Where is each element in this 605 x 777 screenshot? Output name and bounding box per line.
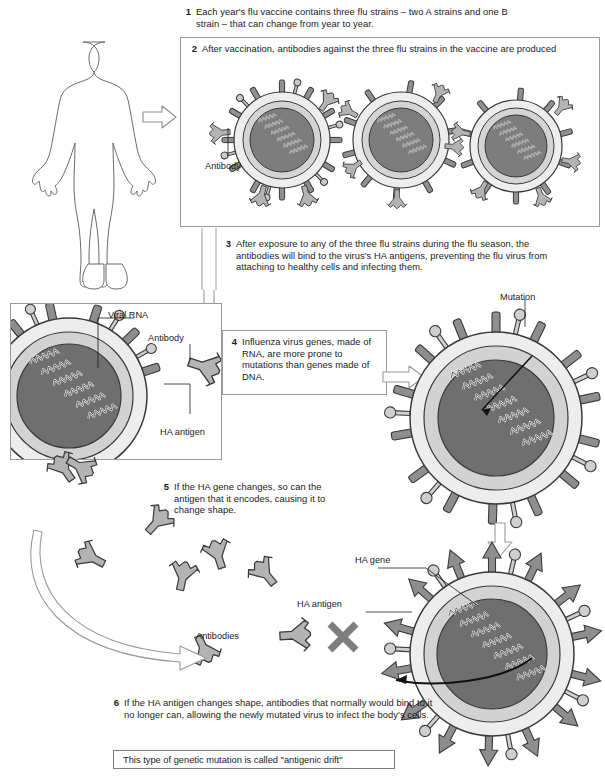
step-6-text: If the HA antigen changes shape, antibod…	[124, 697, 440, 720]
step-4-number: 4	[228, 336, 237, 348]
antibody-label-left: Antibody	[148, 333, 184, 343]
antibody-icon	[199, 536, 237, 573]
antibody-label-panel2: Antibody	[205, 161, 241, 171]
mutated-virus-top	[388, 310, 604, 522]
mutation-label: Mutation	[500, 292, 535, 302]
antibody-icon	[244, 552, 286, 594]
antigenic-drift-caption: This type of genetic mutation is called …	[113, 750, 395, 769]
step-1: 1 Each year's flu vaccine contains three…	[182, 6, 512, 29]
step-1-text: Each year's flu vaccine contains three f…	[196, 6, 512, 29]
ha-gene-label: HA gene	[355, 555, 390, 565]
step-6-number: 6	[110, 697, 119, 709]
vaccine-virus-group	[186, 62, 596, 224]
human-body-icon	[30, 36, 180, 296]
step-6: 6 If the HA antigen changes shape, antib…	[110, 697, 440, 720]
step-4: 4 Influenza virus genes, made of RNA, ar…	[228, 336, 380, 382]
antibody-icon	[279, 617, 312, 652]
step-2-number: 2	[188, 43, 197, 55]
antibody-icon	[72, 537, 112, 578]
step-2: 2 After vaccination, antibodies against …	[188, 43, 596, 55]
viral-rna-label: Viral RNA	[108, 310, 148, 320]
step-3: 3 After exposure to any of the three flu…	[222, 238, 552, 273]
caption-text: This type of genetic mutation is called …	[123, 755, 343, 765]
step-1-number: 1	[182, 6, 191, 18]
antibody-leader-line	[226, 128, 244, 158]
antibodies-label: Antibodies	[196, 631, 239, 641]
step-3-text: After exposure to any of the three flu s…	[236, 238, 552, 273]
antibody-icon	[165, 559, 201, 593]
hollow-arrow-right-icon	[142, 104, 178, 130]
free-antibodies-group	[30, 440, 360, 675]
bottom-virus-leaders	[330, 560, 510, 650]
ha-antigen-label-left: HA antigen	[160, 427, 205, 437]
step-4-text: Influenza virus genes, made of RNA, are …	[242, 336, 380, 382]
step-2-text: After vaccination, antibodies against th…	[202, 43, 596, 55]
left-virus-leaders	[72, 308, 227, 438]
antibody-icon	[137, 501, 179, 543]
ha-antigen-label-bottom: HA antigen	[297, 599, 342, 609]
mutation-leader-line	[493, 297, 533, 331]
hollow-curved-arrow-icon	[31, 530, 206, 670]
